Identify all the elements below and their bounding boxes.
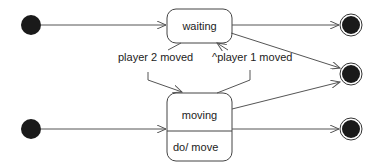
final-state-2 (340, 63, 362, 85)
initial-state-2 (21, 119, 41, 139)
transition-label-player1-moved: ^player 1 moved (212, 51, 292, 63)
final-state-3 (340, 118, 362, 140)
state-moving-label: moving (167, 109, 232, 121)
state-waiting-label: waiting (167, 20, 232, 32)
state-moving-activity: do/ move (173, 141, 218, 153)
initial-state-1 (21, 15, 41, 35)
transition-moving-final2 (232, 82, 340, 109)
transition-label-player2-moved: player 2 moved (118, 51, 193, 63)
final-state-1 (340, 14, 362, 36)
